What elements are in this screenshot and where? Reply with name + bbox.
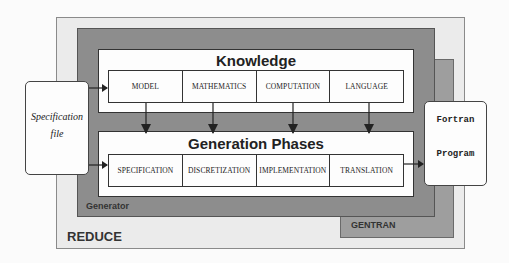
gentran-label: GENTRAN <box>351 220 396 230</box>
fortran-line2: Program <box>425 149 486 159</box>
phase-cell-implementation: IMPLEMENTATION <box>257 155 331 186</box>
phase-cell-translation: TRANSLATION <box>330 155 403 186</box>
knowledge-cells: MODEL MATHEMATICS COMPUTATION LANGUAGE <box>108 70 404 103</box>
generator-label: Generator <box>86 201 129 211</box>
spec-line1: Specification <box>31 108 83 125</box>
fortran-program-box: Fortran Program <box>424 101 487 186</box>
knowledge-title: Knowledge <box>99 52 413 69</box>
knowledge-cell-language: LANGUAGE <box>330 71 403 102</box>
phase-cell-discretization: DISCRETIZATION <box>183 155 257 186</box>
reduce-label: REDUCE <box>67 229 122 244</box>
generation-phases-title: Generation Phases <box>99 135 413 152</box>
phase-cells: SPECIFICATION DISCRETIZATION IMPLEMENTAT… <box>108 154 404 187</box>
fortran-line1: Fortran <box>425 115 486 125</box>
knowledge-cell-mathematics: MATHEMATICS <box>183 71 257 102</box>
spec-line2: file <box>51 125 64 142</box>
specification-file-box: Specification file <box>25 81 89 175</box>
knowledge-cell-model: MODEL <box>109 71 183 102</box>
knowledge-cell-computation: COMPUTATION <box>257 71 331 102</box>
phase-cell-specification: SPECIFICATION <box>109 155 183 186</box>
